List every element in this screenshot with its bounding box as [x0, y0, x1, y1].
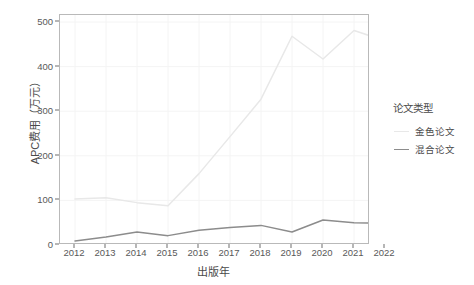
legend-line-icon [393, 123, 410, 139]
x-tick-mark [353, 244, 354, 248]
y-tick-mark [55, 244, 59, 245]
y-tick-mark [55, 65, 59, 66]
x-tick-mark [322, 244, 323, 248]
plot-svg [59, 14, 369, 244]
y-tick-mark [55, 199, 59, 200]
y-tick-mark [55, 110, 59, 111]
y-tick-label: 200 [37, 149, 53, 160]
x-tick-label: 2020 [311, 247, 332, 258]
legend: 论文类型 金色论文混合论文 [393, 100, 474, 159]
x-tick-label: 2015 [156, 247, 177, 258]
x-axis-ticklabels: 2012201320142015201620172018201920202021… [0, 247, 474, 263]
x-tick-label: 2014 [125, 247, 146, 258]
x-tick-label: 2017 [218, 247, 239, 258]
x-tick-mark [136, 244, 137, 248]
x-tick-label: 2021 [342, 247, 363, 258]
x-tick-label: 2013 [94, 247, 115, 258]
chart-figure: APC费用（万元） 0100200300400500 2012201320142… [0, 0, 474, 285]
y-tick-mark [55, 21, 59, 22]
x-tick-mark [167, 244, 168, 248]
legend-items: 金色论文混合论文 [393, 123, 474, 157]
x-tick-mark [229, 244, 230, 248]
y-tick-label: 400 [37, 60, 53, 71]
x-tick-mark [74, 244, 75, 248]
series-lines [75, 30, 369, 241]
y-tick-label: 500 [37, 16, 53, 27]
y-axis-ticklabels: 0100200300400500 [24, 0, 53, 285]
y-tick-label: 300 [37, 105, 53, 116]
plot-panel [59, 14, 369, 244]
series-line [75, 30, 369, 205]
x-tick-label: 2012 [63, 247, 84, 258]
y-tick-mark [55, 154, 59, 155]
y-tick-label: 100 [37, 194, 53, 205]
x-axis-title: 出版年 [59, 263, 369, 279]
x-tick-label: 2016 [187, 247, 208, 258]
legend-item-label: 金色论文 [415, 124, 455, 138]
legend-item[interactable]: 金色论文 [393, 123, 474, 139]
x-tick-label: 2018 [249, 247, 270, 258]
legend-title: 论文类型 [393, 100, 474, 115]
x-tick-label: 2022 [373, 247, 394, 258]
gridlines [60, 15, 369, 244]
x-tick-mark [291, 244, 292, 248]
legend-line-icon [393, 141, 410, 157]
legend-item-label: 混合论文 [415, 142, 455, 156]
x-tick-mark [198, 244, 199, 248]
series-line [75, 220, 369, 241]
legend-item[interactable]: 混合论文 [393, 141, 474, 157]
x-tick-mark [384, 244, 385, 248]
x-tick-mark [260, 244, 261, 248]
x-tick-mark [105, 244, 106, 248]
x-tick-label: 2019 [280, 247, 301, 258]
